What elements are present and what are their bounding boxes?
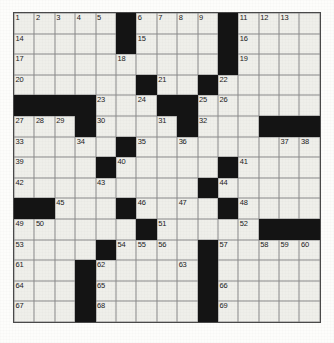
grid-open-cell[interactable]: 4 xyxy=(75,13,95,34)
grid-open-cell[interactable] xyxy=(55,75,75,96)
grid-open-cell[interactable]: 62 xyxy=(96,260,116,281)
grid-open-cell[interactable] xyxy=(177,219,197,240)
grid-open-cell[interactable]: 59 xyxy=(279,240,299,261)
grid-open-cell[interactable]: 30 xyxy=(96,116,116,137)
grid-open-cell[interactable] xyxy=(34,157,54,178)
grid-open-cell[interactable] xyxy=(116,178,136,199)
grid-open-cell[interactable]: 40 xyxy=(116,157,136,178)
grid-open-cell[interactable] xyxy=(279,54,299,75)
grid-open-cell[interactable]: 3 xyxy=(55,13,75,34)
grid-open-cell[interactable] xyxy=(259,95,279,116)
grid-open-cell[interactable] xyxy=(238,178,258,199)
grid-open-cell[interactable] xyxy=(279,34,299,55)
grid-open-cell[interactable] xyxy=(75,157,95,178)
grid-open-cell[interactable]: 12 xyxy=(259,13,279,34)
grid-open-cell[interactable] xyxy=(96,75,116,96)
grid-open-cell[interactable]: 60 xyxy=(299,240,319,261)
grid-open-cell[interactable] xyxy=(55,219,75,240)
grid-open-cell[interactable] xyxy=(75,34,95,55)
grid-open-cell[interactable]: 45 xyxy=(55,198,75,219)
grid-open-cell[interactable]: 65 xyxy=(96,281,116,302)
grid-open-cell[interactable] xyxy=(75,240,95,261)
grid-open-cell[interactable] xyxy=(96,54,116,75)
grid-open-cell[interactable] xyxy=(177,178,197,199)
grid-open-cell[interactable] xyxy=(198,34,218,55)
grid-open-cell[interactable] xyxy=(157,34,177,55)
grid-open-cell[interactable] xyxy=(259,157,279,178)
grid-open-cell[interactable]: 8 xyxy=(177,13,197,34)
grid-open-cell[interactable] xyxy=(136,260,156,281)
grid-open-cell[interactable]: 53 xyxy=(14,240,34,261)
grid-open-cell[interactable] xyxy=(299,34,319,55)
grid-open-cell[interactable] xyxy=(259,260,279,281)
grid-open-cell[interactable] xyxy=(55,137,75,158)
grid-open-cell[interactable] xyxy=(177,301,197,322)
grid-open-cell[interactable] xyxy=(299,54,319,75)
grid-open-cell[interactable] xyxy=(34,75,54,96)
grid-open-cell[interactable] xyxy=(299,281,319,302)
grid-open-cell[interactable] xyxy=(75,198,95,219)
grid-open-cell[interactable]: 56 xyxy=(157,240,177,261)
grid-open-cell[interactable]: 69 xyxy=(218,301,238,322)
grid-open-cell[interactable] xyxy=(259,301,279,322)
grid-open-cell[interactable] xyxy=(157,198,177,219)
grid-open-cell[interactable] xyxy=(55,178,75,199)
grid-open-cell[interactable] xyxy=(198,219,218,240)
grid-open-cell[interactable] xyxy=(96,219,116,240)
grid-open-cell[interactable] xyxy=(116,219,136,240)
grid-open-cell[interactable] xyxy=(198,137,218,158)
grid-open-cell[interactable] xyxy=(157,178,177,199)
grid-open-cell[interactable]: 58 xyxy=(259,240,279,261)
grid-open-cell[interactable] xyxy=(299,260,319,281)
grid-open-cell[interactable] xyxy=(177,75,197,96)
grid-open-cell[interactable]: 11 xyxy=(238,13,258,34)
grid-open-cell[interactable]: 51 xyxy=(157,219,177,240)
grid-open-cell[interactable]: 54 xyxy=(116,240,136,261)
grid-open-cell[interactable]: 46 xyxy=(136,198,156,219)
grid-open-cell[interactable]: 19 xyxy=(238,54,258,75)
grid-open-cell[interactable]: 36 xyxy=(177,137,197,158)
grid-open-cell[interactable]: 49 xyxy=(14,219,34,240)
grid-open-cell[interactable]: 17 xyxy=(14,54,34,75)
grid-open-cell[interactable]: 50 xyxy=(34,219,54,240)
grid-open-cell[interactable] xyxy=(259,198,279,219)
grid-open-cell[interactable] xyxy=(198,157,218,178)
grid-open-cell[interactable] xyxy=(279,75,299,96)
grid-open-cell[interactable]: 34 xyxy=(75,137,95,158)
grid-open-cell[interactable] xyxy=(55,260,75,281)
grid-open-cell[interactable] xyxy=(96,198,116,219)
grid-open-cell[interactable] xyxy=(259,54,279,75)
grid-open-cell[interactable] xyxy=(198,54,218,75)
grid-open-cell[interactable] xyxy=(299,178,319,199)
grid-open-cell[interactable] xyxy=(96,34,116,55)
grid-open-cell[interactable]: 33 xyxy=(14,137,34,158)
grid-open-cell[interactable]: 42 xyxy=(14,178,34,199)
grid-open-cell[interactable] xyxy=(157,260,177,281)
grid-open-cell[interactable]: 16 xyxy=(238,34,258,55)
grid-open-cell[interactable] xyxy=(259,137,279,158)
grid-open-cell[interactable] xyxy=(136,178,156,199)
grid-open-cell[interactable] xyxy=(238,95,258,116)
grid-open-cell[interactable] xyxy=(157,301,177,322)
grid-open-cell[interactable] xyxy=(238,240,258,261)
grid-open-cell[interactable] xyxy=(55,240,75,261)
grid-open-cell[interactable] xyxy=(299,75,319,96)
grid-open-cell[interactable]: 5 xyxy=(96,13,116,34)
grid-open-cell[interactable]: 9 xyxy=(198,13,218,34)
grid-open-cell[interactable] xyxy=(55,301,75,322)
grid-open-cell[interactable]: 29 xyxy=(55,116,75,137)
grid-open-cell[interactable]: 63 xyxy=(177,260,197,281)
grid-open-cell[interactable] xyxy=(299,198,319,219)
grid-open-cell[interactable]: 23 xyxy=(96,95,116,116)
grid-open-cell[interactable] xyxy=(75,54,95,75)
grid-open-cell[interactable]: 18 xyxy=(116,54,136,75)
grid-open-cell[interactable]: 68 xyxy=(96,301,116,322)
grid-open-cell[interactable] xyxy=(299,13,319,34)
grid-open-cell[interactable] xyxy=(116,301,136,322)
grid-open-cell[interactable]: 27 xyxy=(14,116,34,137)
grid-open-cell[interactable] xyxy=(299,301,319,322)
grid-open-cell[interactable]: 21 xyxy=(157,75,177,96)
grid-open-cell[interactable] xyxy=(218,137,238,158)
grid-open-cell[interactable] xyxy=(218,219,238,240)
grid-open-cell[interactable] xyxy=(136,54,156,75)
